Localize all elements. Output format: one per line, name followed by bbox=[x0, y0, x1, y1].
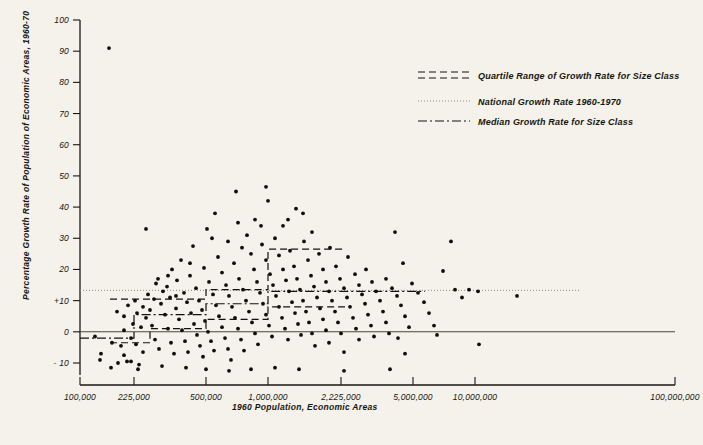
y-tick-label: 100 bbox=[54, 15, 69, 25]
data-point bbox=[321, 268, 325, 272]
data-point bbox=[252, 268, 256, 272]
data-point bbox=[422, 300, 426, 304]
y-tick-label: - 10 bbox=[54, 358, 70, 368]
y-tick-label: 30 bbox=[59, 233, 69, 243]
data-point bbox=[197, 299, 201, 303]
data-point bbox=[328, 246, 332, 250]
data-point bbox=[476, 289, 480, 293]
data-point bbox=[317, 252, 321, 256]
data-point bbox=[135, 311, 139, 315]
data-point bbox=[191, 244, 195, 248]
x-tick-label: 100,000,000 bbox=[650, 392, 700, 402]
data-point bbox=[307, 321, 311, 325]
legend-label: National Growth Rate 1960-1970 bbox=[478, 97, 621, 107]
data-point bbox=[304, 310, 308, 314]
data-point bbox=[242, 349, 246, 353]
data-point bbox=[131, 322, 135, 326]
data-point bbox=[244, 299, 248, 303]
data-point bbox=[213, 211, 217, 215]
data-point bbox=[449, 239, 453, 243]
data-point bbox=[515, 294, 519, 298]
data-point bbox=[271, 283, 275, 287]
data-point bbox=[214, 303, 218, 307]
data-point bbox=[270, 335, 274, 339]
data-point bbox=[369, 324, 373, 328]
y-tick-label: 20 bbox=[58, 264, 69, 274]
data-point bbox=[388, 367, 392, 371]
data-point bbox=[477, 342, 481, 346]
data-point bbox=[217, 314, 221, 318]
data-point bbox=[390, 286, 394, 290]
data-point bbox=[366, 313, 370, 317]
data-point bbox=[354, 327, 358, 331]
data-point bbox=[313, 344, 317, 348]
data-point bbox=[141, 305, 145, 309]
data-point bbox=[170, 268, 174, 272]
data-point bbox=[245, 233, 249, 237]
data-point bbox=[198, 344, 202, 348]
data-point bbox=[357, 338, 361, 342]
data-point bbox=[186, 350, 190, 354]
data-point bbox=[227, 369, 231, 373]
data-point bbox=[259, 224, 263, 228]
data-point bbox=[256, 342, 260, 346]
data-point bbox=[211, 293, 215, 297]
data-point bbox=[321, 317, 325, 321]
data-point bbox=[295, 277, 299, 281]
x-tick-label: 10,000,000 bbox=[453, 392, 498, 402]
data-point bbox=[232, 261, 236, 265]
data-point bbox=[174, 294, 178, 298]
y-tick-label: 50 bbox=[59, 171, 69, 181]
data-point bbox=[175, 278, 179, 282]
data-point bbox=[357, 283, 361, 287]
data-point bbox=[264, 313, 268, 317]
data-point bbox=[264, 185, 268, 189]
data-point bbox=[156, 277, 160, 281]
data-point bbox=[306, 258, 310, 262]
data-point bbox=[115, 310, 119, 314]
data-point bbox=[188, 261, 192, 265]
data-point bbox=[99, 352, 103, 356]
data-point bbox=[301, 211, 305, 215]
data-point bbox=[396, 336, 400, 340]
data-point bbox=[268, 272, 272, 276]
data-point bbox=[192, 322, 196, 326]
data-point bbox=[294, 207, 298, 211]
data-point bbox=[378, 299, 382, 303]
data-point bbox=[236, 327, 240, 331]
scatter-plot-figure: 1009080706050403020+100- 10 100,000225,0… bbox=[0, 0, 703, 445]
data-point bbox=[125, 360, 129, 364]
data-point bbox=[174, 307, 178, 311]
data-point bbox=[286, 338, 290, 342]
data-point bbox=[346, 255, 350, 259]
data-point bbox=[345, 296, 349, 300]
data-point bbox=[372, 335, 376, 339]
data-point bbox=[207, 280, 211, 284]
data-point bbox=[136, 367, 140, 371]
data-point bbox=[129, 336, 133, 340]
data-point bbox=[98, 358, 102, 362]
data-point bbox=[301, 299, 305, 303]
data-point bbox=[310, 331, 314, 335]
data-point bbox=[247, 310, 251, 314]
data-point bbox=[201, 355, 205, 359]
data-point bbox=[204, 367, 208, 371]
data-point bbox=[327, 289, 331, 293]
data-point bbox=[188, 274, 192, 278]
data-point bbox=[255, 280, 259, 284]
data-point bbox=[334, 264, 338, 268]
y-tick-label: +10 bbox=[54, 296, 69, 306]
data-point bbox=[107, 46, 111, 50]
data-point bbox=[129, 360, 133, 364]
data-point bbox=[122, 314, 126, 318]
data-point bbox=[249, 252, 253, 256]
data-point bbox=[410, 282, 414, 286]
data-point bbox=[224, 283, 228, 287]
data-point bbox=[165, 285, 169, 289]
data-point bbox=[253, 218, 257, 222]
legend-label: Quartile Range of Growth Rate for Size C… bbox=[478, 71, 679, 81]
data-point bbox=[351, 316, 355, 320]
data-point bbox=[261, 302, 265, 306]
data-point bbox=[163, 313, 167, 317]
data-point bbox=[119, 344, 123, 348]
